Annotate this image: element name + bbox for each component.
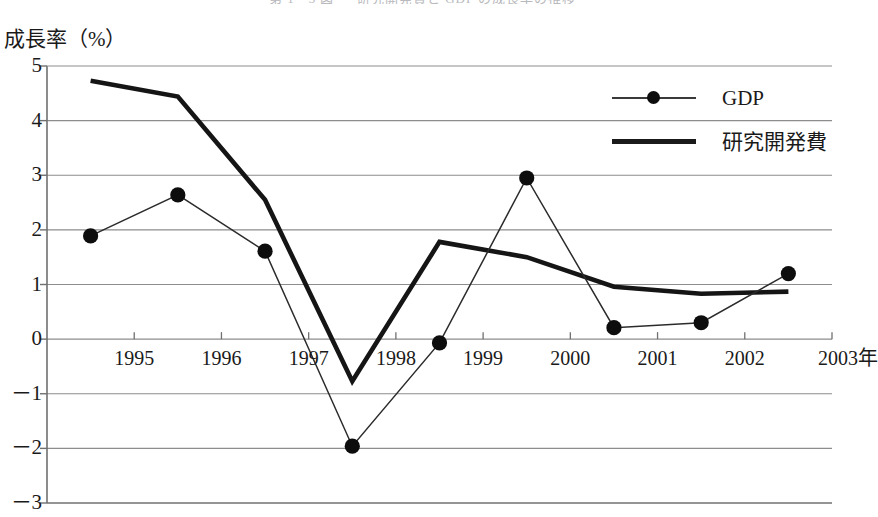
legend-label-rnd: 研究開発費 <box>722 131 827 153</box>
x-tick-label: 1999 <box>463 348 503 368</box>
x-tick-label: 1997 <box>289 348 329 368</box>
x-tick-label: 2002 <box>725 348 765 368</box>
x-tick-label: 1998 <box>376 348 416 368</box>
x-tick-label: 2003年 <box>818 348 878 368</box>
legend-thick-line-icon <box>612 139 696 144</box>
legend-circle-marker-icon <box>647 91 660 104</box>
x-tick-label: 1995 <box>114 348 154 368</box>
legend-item-rnd: 研究開発費 <box>612 120 837 164</box>
x-tick-label: 2001 <box>638 348 678 368</box>
x-tick-label: 1996 <box>201 348 241 368</box>
legend-swatch-gdp <box>612 88 696 108</box>
legend-item-gdp: GDP <box>612 76 837 120</box>
legend-label-gdp: GDP <box>722 87 764 109</box>
chart-legend: GDP 研究開発費 <box>612 76 837 164</box>
x-tick-label: 2000 <box>550 348 590 368</box>
legend-swatch-rnd <box>612 132 696 152</box>
